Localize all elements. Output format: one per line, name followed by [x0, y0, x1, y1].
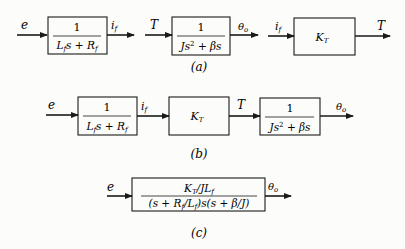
input-label-e: e: [48, 98, 55, 112]
block-diagram: e 1 Lfs + Rf if T 1 Js2 + βs θo if KT: [0, 0, 405, 249]
denominator: (s + Rf/Lf)s(s + β/J): [149, 197, 250, 211]
denominator: Js2 + βs: [178, 40, 222, 52]
output-label-if: if: [111, 19, 119, 33]
input-label-if: if: [275, 20, 283, 34]
numerator: KT/JLf: [183, 182, 215, 196]
denominator: Lfs + Rf: [56, 39, 99, 53]
panel-a-field-circuit-block: e 1 Lfs + Rf if: [17, 17, 134, 54]
panel-b-caption: (b): [190, 147, 207, 161]
panel-a-mechanical-block: T 1 Js2 + βs θo: [145, 17, 258, 55]
output-label-theta-o: θo: [336, 101, 346, 114]
panel-a-torque-gain-block: if KT T: [268, 18, 390, 55]
input-label-e: e: [21, 18, 28, 32]
panel-c: e KT/JLf (s + Rf/Lf)s(s + β/J) θo (c): [107, 178, 291, 240]
input-label-e: e: [107, 180, 114, 194]
panel-a-caption: (a): [191, 60, 208, 74]
panel-c-caption: (c): [191, 226, 207, 240]
label-if: if: [141, 100, 149, 114]
numerator: 1: [198, 21, 205, 34]
output-label-theta-o: θo: [268, 181, 278, 194]
panel-b: e 1 Lfs + Rf if KT T 1 Js2 + βs θo (b): [46, 97, 353, 161]
input-label-T: T: [150, 18, 159, 32]
gain-KT: KT: [315, 31, 330, 45]
output-label-theta-o: θo: [238, 21, 248, 34]
numerator: 1: [74, 21, 81, 34]
output-label-T: T: [377, 19, 386, 33]
panel-a: e 1 Lfs + Rf if T 1 Js2 + βs θo if KT: [17, 17, 390, 74]
label-T: T: [237, 98, 246, 112]
denominator: Js2 + βs: [267, 121, 311, 133]
numerator: 1: [104, 101, 111, 114]
denominator: Lfs + Rf: [86, 120, 129, 134]
numerator: 1: [287, 102, 294, 115]
gain-KT: KT: [190, 110, 205, 124]
